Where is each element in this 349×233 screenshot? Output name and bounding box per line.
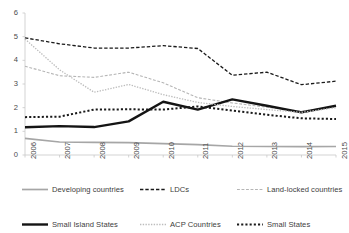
legend-label: Small Island States (52, 220, 118, 229)
x-tick-label: 2010 (167, 142, 176, 159)
legend-swatch-icon (237, 185, 263, 194)
chart-legend: Developing countriesLDCsLand-locked coun… (0, 181, 343, 221)
legend-row-1: Developing countriesLDCsLand-locked coun… (0, 181, 343, 198)
legend-item-small-island-states[interactable]: Small Island States (22, 216, 118, 233)
series-line-small-states (25, 106, 336, 119)
y-tick-label: 1 (6, 126, 18, 135)
y-tick-label: 4 (6, 55, 18, 64)
x-tick-label: 2013 (270, 142, 279, 159)
legend-swatch-icon (22, 185, 48, 194)
y-tick-label: 3 (6, 79, 18, 88)
x-tick-label: 2006 (29, 142, 38, 159)
legend-swatch-icon (140, 185, 166, 194)
legend-swatch-icon (22, 220, 48, 229)
y-tick-label: 2 (6, 103, 18, 112)
legend-row-2: Small Island StatesACP CountriesSmall St… (0, 199, 343, 216)
axis-lines (25, 13, 336, 155)
x-tick-label: 2012 (236, 142, 245, 159)
legend-item-developing-countries[interactable]: Developing countries (22, 181, 124, 198)
legend-label: LDCs (170, 185, 189, 194)
x-tick-label: 2008 (98, 142, 107, 159)
y-tick-label: 5 (6, 32, 18, 41)
legend-label: Land-locked countries (267, 185, 342, 194)
x-tick-label: 2011 (201, 143, 210, 159)
x-tick-label: 2007 (63, 142, 72, 159)
legend-label: Developing countries (52, 185, 124, 194)
x-tick-label: 2014 (305, 142, 314, 159)
series-line-acp-countries (25, 39, 336, 112)
legend-swatch-icon (140, 220, 166, 229)
x-tick-label: 2015 (340, 142, 349, 159)
legend-swatch-icon (237, 220, 263, 229)
x-tick-label: 2009 (132, 142, 141, 159)
legend-label: Small States (267, 220, 310, 229)
legend-item-small-states[interactable]: Small States (237, 216, 310, 233)
legend-item-land-locked-countries[interactable]: Land-locked countries (237, 181, 342, 198)
legend-label: ACP Countries (170, 220, 221, 229)
legend-item-ldcs[interactable]: LDCs (140, 181, 189, 198)
legend-item-acp-countries[interactable]: ACP Countries (140, 216, 221, 233)
y-tick-label: 0 (6, 150, 18, 159)
y-tick-label: 6 (6, 8, 18, 17)
